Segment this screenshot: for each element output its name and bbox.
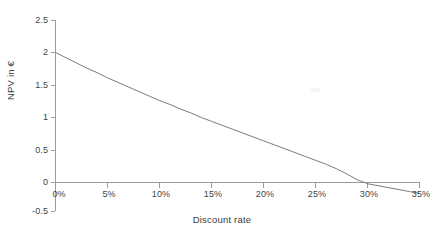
x-tick-label-5pct: 5% [102,190,115,199]
x-tick-label-10pct: 10% [152,190,170,199]
y-tick-label-2: 2 [24,48,48,57]
y-axis-title: NPV in € [5,41,16,121]
y-tick-label-1: 1 [24,113,48,122]
npv-discount-rate-chart: 2.5 2 1.5 1 0.5 0 -0.5 0% 5% 10% 15% 20%… [0,0,444,234]
y-tick-label-0.5: 0.5 [24,146,48,155]
npv-data-series-line [56,53,421,194]
x-tick-label-30pct: 30% [360,190,378,199]
x-tick-label-35pct: 35% [412,190,430,199]
faint-artifact-mark [311,88,320,92]
y-tick-label-2.5: 2.5 [24,16,48,25]
x-tick-label-20pct: 20% [256,190,274,199]
x-tick-label-25pct: 25% [308,190,326,199]
x-tick-label-0pct: 0% [52,190,65,199]
x-tick-label-15pct: 15% [204,190,222,199]
y-tick-label-0: 0 [24,178,48,187]
y-axis-tick-marks [51,21,55,212]
y-tick-label-1.5: 1.5 [24,81,48,90]
x-axis-title: Discount rate [0,214,444,225]
